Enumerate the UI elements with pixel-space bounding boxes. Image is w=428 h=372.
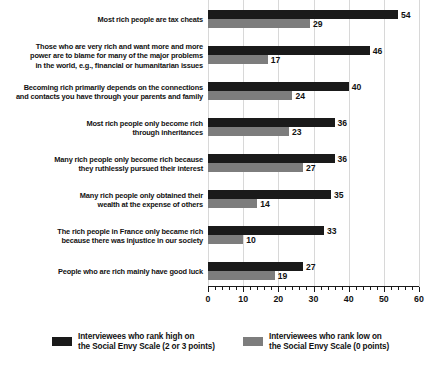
tick-minor [370, 287, 371, 290]
tick-minor [271, 287, 272, 290]
bar-line: 46 [208, 46, 419, 55]
bar-row: Becoming rich primarily depends on the c… [0, 74, 428, 110]
tick-minor [222, 287, 223, 290]
tick-major [419, 287, 420, 292]
bar-value-label: 17 [268, 55, 281, 65]
tick-minor [285, 287, 286, 290]
bar-value-label: 33 [324, 226, 337, 236]
bar-low-envy [208, 127, 289, 136]
tick-minor [398, 287, 399, 290]
tick-minor [215, 287, 216, 290]
bar-high-envy [208, 82, 349, 91]
bar-line: 40 [208, 82, 419, 91]
bar-row: The rich people in France only became ri… [0, 218, 428, 254]
bar-row: Most rich people only become rich throug… [0, 110, 428, 146]
bar-rows: Most rich people are tax cheats5429Those… [0, 0, 428, 288]
x-tick-label: 30 [309, 294, 319, 304]
legend-label-low: Interviewees who rank low on the Social … [269, 332, 389, 353]
bar-high-envy [208, 262, 303, 271]
bar-group: 5429 [208, 10, 419, 29]
category-label: Many rich people only obtained their wea… [3, 191, 203, 210]
tick-minor [405, 287, 406, 290]
tick-minor [391, 287, 392, 290]
x-tick-label: 10 [238, 294, 248, 304]
category-label: Most rich people are tax cheats [3, 15, 203, 24]
bar-chart: Most rich people are tax cheats5429Those… [0, 0, 428, 372]
tick-major [278, 287, 279, 292]
tick-minor [363, 287, 364, 290]
tick-major [208, 287, 209, 292]
tick-minor [236, 287, 237, 290]
tick-major [384, 287, 385, 292]
legend-swatch-high-icon [52, 337, 72, 346]
category-label: The rich people in France only became ri… [3, 227, 203, 246]
bar-line: 17 [208, 55, 419, 64]
bar-value-label: 27 [303, 163, 316, 173]
bar-group: 3310 [208, 226, 419, 245]
tick-minor [292, 287, 293, 290]
bar-group: 4024 [208, 82, 419, 101]
bar-low-envy [208, 199, 257, 208]
chart-legend: Interviewees who rank high on the Social… [0, 326, 428, 372]
bar-value-label: 35 [331, 190, 344, 200]
bar-low-envy [208, 19, 310, 28]
tick-minor [412, 287, 413, 290]
bar-high-envy [208, 46, 370, 55]
bar-value-label: 14 [257, 199, 270, 209]
plot-area: Most rich people are tax cheats5429Those… [0, 0, 428, 300]
x-tick-label: 40 [344, 294, 354, 304]
bar-row: People who are rich mainly have good luc… [0, 254, 428, 290]
tick-minor [377, 287, 378, 290]
bar-line: 10 [208, 235, 419, 244]
bar-value-label: 29 [310, 19, 323, 29]
bar-low-envy [208, 235, 243, 244]
bar-line: 29 [208, 19, 419, 28]
x-tick-label: 0 [206, 294, 211, 304]
category-label: Those who are very rich and want more an… [3, 42, 203, 70]
tick-major [349, 287, 350, 292]
bar-line: 24 [208, 91, 419, 100]
bar-line: 33 [208, 226, 419, 235]
bar-line: 35 [208, 190, 419, 199]
tick-minor [335, 287, 336, 290]
bar-group: 2719 [208, 262, 419, 281]
bar-group: 3514 [208, 190, 419, 209]
bar-low-envy [208, 163, 303, 172]
x-axis: 0102030405060 [0, 286, 428, 310]
bar-high-envy [208, 226, 324, 235]
bar-value-label: 27 [303, 262, 316, 272]
bar-row: Those who are very rich and want more an… [0, 38, 428, 74]
bar-group: 3627 [208, 154, 419, 173]
bar-value-label: 40 [349, 82, 362, 92]
category-label: Becoming rich primarily depends on the c… [3, 83, 203, 102]
category-label: People who are rich mainly have good luc… [3, 267, 203, 276]
bar-high-envy [208, 118, 335, 127]
tick-minor [229, 287, 230, 290]
bar-group: 4617 [208, 46, 419, 65]
bar-line: 14 [208, 199, 419, 208]
tick-minor [328, 287, 329, 290]
legend-swatch-low-icon [243, 337, 263, 346]
x-tick-label: 50 [379, 294, 389, 304]
bar-line: 36 [208, 118, 419, 127]
bar-value-label: 46 [370, 46, 383, 56]
bar-row: Most rich people are tax cheats5429 [0, 2, 428, 38]
category-label: Many rich people only become rich becaus… [3, 155, 203, 174]
category-label: Most rich people only become rich throug… [3, 119, 203, 138]
tick-major [243, 287, 244, 292]
bar-value-label: 36 [335, 154, 348, 164]
tick-minor [321, 287, 322, 290]
tick-minor [356, 287, 357, 290]
bar-value-label: 19 [275, 271, 288, 281]
tick-major [314, 287, 315, 292]
bar-low-envy [208, 55, 268, 64]
bar-value-label: 24 [292, 91, 305, 101]
bar-value-label: 23 [289, 127, 302, 137]
tick-minor [306, 287, 307, 290]
tick-minor [342, 287, 343, 290]
bar-line: 27 [208, 262, 419, 271]
legend-item-low: Interviewees who rank low on the Social … [243, 332, 389, 353]
bar-line: 23 [208, 127, 419, 136]
tick-minor [257, 287, 258, 290]
legend-label-high: Interviewees who rank high on the Social… [78, 332, 215, 353]
